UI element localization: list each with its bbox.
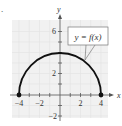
svg-text:−4: −4 <box>15 99 24 108</box>
svg-text:2: 2 <box>79 99 83 108</box>
svg-text:4: 4 <box>99 99 103 108</box>
svg-text:2: 2 <box>52 69 56 78</box>
y-axis-arrow-icon <box>58 14 62 19</box>
svg-text:6: 6 <box>52 27 56 36</box>
x-axis-arrow-icon <box>109 93 114 97</box>
y-axis-label: y <box>56 5 61 14</box>
svg-text:−2: −2 <box>48 112 57 121</box>
figure-marker: . <box>1 4 3 14</box>
svg-text:−2: −2 <box>35 99 44 108</box>
endpoint-right <box>99 93 104 98</box>
function-label: y = f(x) <box>73 32 101 42</box>
function-graph: −4 −2 2 4 6 2 −2 x y y = f(x) . <box>0 0 122 126</box>
x-axis-label: x <box>116 91 121 100</box>
endpoint-left <box>17 93 22 98</box>
